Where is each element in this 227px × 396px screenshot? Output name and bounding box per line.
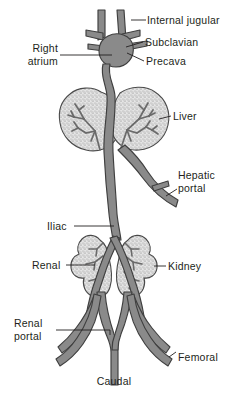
label-hepatic-portal-line1: Hepatic: [178, 169, 215, 181]
label-liver: Liver: [173, 110, 197, 123]
label-internal-jugular: Internal jugular: [147, 14, 220, 27]
label-renal-portal-line2: portal: [14, 330, 41, 342]
label-right-atrium-line1: Right: [32, 42, 58, 54]
label-renal-portal: Renal portal: [14, 317, 58, 342]
label-iliac: Iliac: [47, 220, 67, 233]
leader-femoral: [169, 352, 176, 357]
label-femoral: Femoral: [178, 351, 218, 364]
label-precava: Precava: [146, 55, 186, 68]
label-subclavian: Subclavian: [145, 36, 198, 49]
label-kidney: Kidney: [168, 260, 201, 273]
label-right-atrium-line2: atrium: [28, 55, 58, 67]
diagram-page: Internal jugular Subclavian Precava Righ…: [0, 0, 227, 396]
label-renal: Renal: [32, 259, 60, 272]
label-renal-portal-line1: Renal: [14, 317, 42, 329]
label-right-atrium: Right atrium: [0, 42, 58, 67]
label-hepatic-portal-line2: portal: [178, 182, 205, 194]
hepatic-portal-vein: [118, 145, 178, 207]
label-caudal: Caudal: [83, 375, 145, 388]
label-hepatic-portal: Hepatic portal: [178, 169, 227, 194]
right-atrium-bulb: [99, 34, 133, 67]
postcava: [102, 64, 121, 241]
